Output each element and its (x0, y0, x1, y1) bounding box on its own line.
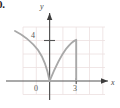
coordinate-plane-graphic (0, 0, 120, 108)
y-tick-label-4: 4 (31, 32, 35, 40)
math-figure: 0. (0, 0, 120, 108)
x-tick-label-3: 3 (73, 85, 77, 93)
origin-label: 0 (34, 85, 38, 93)
x-axis (6, 78, 108, 83)
y-axis-label: y (40, 3, 44, 11)
y-axis (47, 13, 52, 100)
x-axis-label: x (111, 79, 115, 87)
